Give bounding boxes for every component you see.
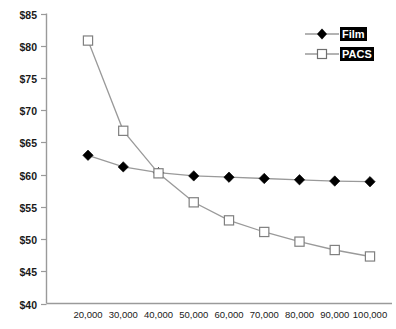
- legend-item-film[interactable]: Film: [304, 24, 388, 44]
- data-point-pacs-3: [189, 198, 198, 207]
- x-tick-label-8: 100,000: [353, 309, 387, 320]
- data-point-pacs-7: [330, 245, 339, 254]
- data-point-film-7: [330, 176, 340, 186]
- data-point-pacs-4: [224, 216, 233, 225]
- series-pacs: [83, 36, 374, 261]
- legend-item-pacs[interactable]: PACS: [304, 44, 388, 64]
- y-tick-label-4: $65: [19, 137, 37, 149]
- y-tick-label-3: $70: [19, 105, 37, 117]
- y-tick-label-7: $50: [19, 234, 37, 246]
- data-point-film-4: [224, 172, 234, 182]
- data-point-film-6: [294, 175, 304, 185]
- data-point-pacs-6: [295, 237, 304, 246]
- chart-container: $85$80$75$70$65$60$55$50$45$40 20,00030,…: [0, 0, 396, 329]
- series-film: [83, 150, 375, 187]
- data-point-film-1: [118, 162, 128, 172]
- x-tick-label-6: 80,000: [285, 309, 314, 320]
- y-tick-label-2: $75: [19, 73, 37, 85]
- x-tick-label-7: 90,000: [320, 309, 349, 320]
- y-tick-label-8: $45: [19, 266, 37, 278]
- x-tick-label-0: 20,000: [73, 309, 102, 320]
- y-tick-label-6: $55: [19, 202, 37, 214]
- x-axis-tick-labels: 20,00030,00040,00050,00060,00070,00080,0…: [73, 309, 387, 320]
- y-axis-tick-marks: [41, 15, 47, 305]
- data-point-film-3: [189, 171, 199, 181]
- legend-label-pacs: PACS: [340, 47, 374, 61]
- chart-legend: Film PACS: [304, 24, 388, 64]
- data-point-pacs-0: [83, 36, 92, 45]
- open-square-icon: [304, 46, 340, 62]
- filled-diamond-icon: [304, 26, 340, 42]
- data-point-pacs-8: [365, 252, 374, 261]
- data-point-pacs-2: [154, 169, 163, 178]
- data-point-pacs-5: [260, 227, 269, 236]
- data-point-film-0: [83, 150, 93, 160]
- x-tick-label-1: 30,000: [109, 309, 138, 320]
- y-tick-label-5: $60: [19, 170, 37, 182]
- data-series-layer: [83, 36, 375, 261]
- legend-label-film: Film: [340, 27, 367, 41]
- y-tick-label-0: $85: [19, 9, 37, 21]
- data-point-film-5: [259, 173, 269, 183]
- y-tick-label-9: $40: [19, 299, 37, 311]
- x-tick-label-3: 50,000: [179, 309, 208, 320]
- data-point-pacs-1: [119, 126, 128, 135]
- data-point-film-8: [365, 177, 375, 187]
- y-tick-label-1: $80: [19, 41, 37, 53]
- x-tick-label-2: 40,000: [144, 309, 173, 320]
- x-tick-label-5: 70,000: [250, 309, 279, 320]
- y-axis-tick-labels: $85$80$75$70$65$60$55$50$45$40: [19, 9, 37, 311]
- x-tick-label-4: 60,000: [214, 309, 243, 320]
